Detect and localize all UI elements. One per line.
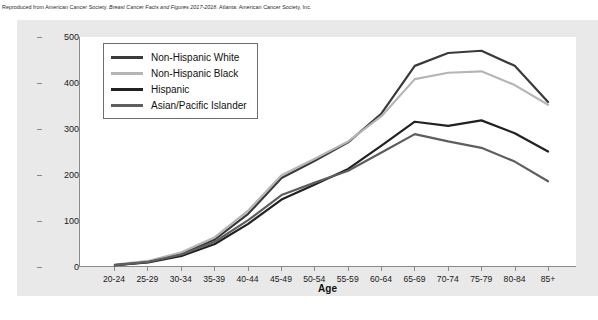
y-tick-label: 400 [45, 78, 79, 88]
caption-suffix: . Atlanta: American Cancer Society, Inc. [216, 4, 311, 10]
y-tick-mark [37, 129, 42, 130]
figure-caption: Reproduced from American Cancer Society.… [2, 3, 582, 11]
x-tick-mark [147, 267, 148, 271]
legend-item: Non-Hispanic White [111, 49, 247, 65]
legend-label: Hispanic [151, 84, 189, 95]
legend-swatch [111, 88, 143, 91]
y-tick-label: 200 [45, 170, 79, 180]
y-tick-label: 500 [45, 32, 79, 42]
legend-swatch [111, 56, 143, 59]
caption-source-title: Breast Cancer Facts and Figures 2017-201… [109, 4, 216, 10]
x-tick-mark [515, 267, 516, 271]
y-tick-mark [37, 221, 42, 222]
legend-label: Non-Hispanic White [151, 52, 239, 63]
legend-item: Hispanic [111, 81, 247, 97]
x-tick-mark [281, 267, 282, 271]
chart-panel: Rate per 100,000 0100200300400500 Non-Hi… [17, 20, 598, 296]
x-tick-mark [248, 267, 249, 271]
x-tick-mark [448, 267, 449, 271]
caption-prefix: Reproduced from American Cancer Society. [2, 4, 109, 10]
y-axis-ticks: 0100200300400500 [37, 37, 79, 267]
x-tick-mark [348, 267, 349, 271]
x-tick-mark [414, 267, 415, 271]
legend-swatch [111, 104, 143, 107]
y-tick-mark [37, 83, 42, 84]
y-tick-label: 300 [45, 124, 79, 134]
legend-label: Asian/Pacific Islander [151, 100, 247, 111]
series-line [115, 120, 548, 265]
x-tick-mark [181, 267, 182, 271]
plot-area: Non-Hispanic WhiteNon-Hispanic BlackHisp… [79, 37, 576, 267]
series-line [115, 134, 548, 265]
legend-swatch [111, 72, 143, 75]
legend-label: Non-Hispanic Black [151, 68, 238, 79]
y-tick-mark [37, 175, 42, 176]
x-tick-mark [381, 267, 382, 271]
y-tick-mark [37, 267, 42, 268]
x-tick-mark [548, 267, 549, 271]
x-tick-mark [481, 267, 482, 271]
x-tick-mark [314, 267, 315, 271]
y-tick-mark [37, 37, 42, 38]
chart-legend: Non-Hispanic WhiteNon-Hispanic BlackHisp… [103, 43, 258, 119]
y-tick-label: 100 [45, 216, 79, 226]
x-tick-mark [214, 267, 215, 271]
x-axis-title: Age [79, 283, 576, 294]
x-tick-mark [114, 267, 115, 271]
legend-item: Non-Hispanic Black [111, 65, 247, 81]
figure-container: Reproduced from American Cancer Society.… [0, 0, 598, 320]
legend-item: Asian/Pacific Islander [111, 97, 247, 113]
y-tick-label: 0 [45, 262, 79, 272]
